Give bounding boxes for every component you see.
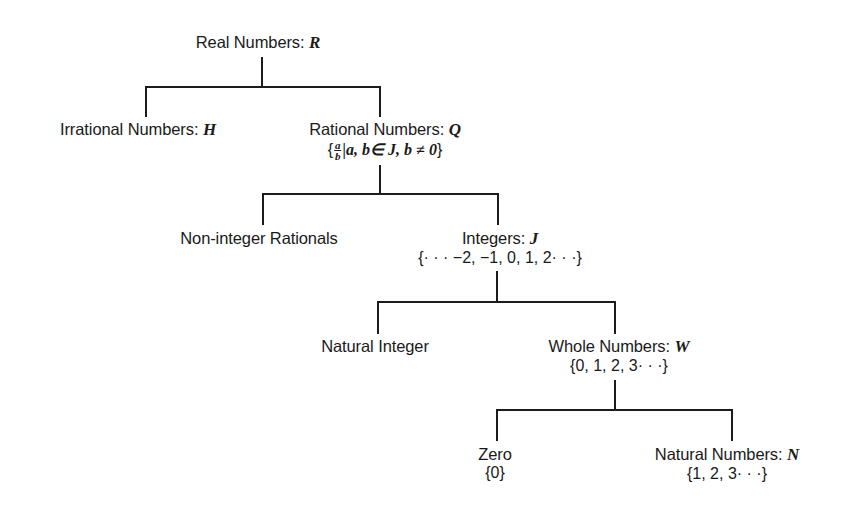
set-symbol: W: [674, 337, 689, 356]
set-roster: {0, 1, 2, 3· · ·}: [549, 357, 690, 375]
node-label: Whole Numbers: W: [549, 337, 690, 356]
set-builder-notation: {ab|a, b∈ J, b ≠ 0}: [309, 140, 461, 161]
node-natural-integer: Natural Integer: [321, 337, 429, 355]
set-condition: |a, b∈ J, b ≠ 0: [343, 141, 437, 158]
fraction-a-over-b: ab: [334, 140, 342, 161]
node-label: Integers: J: [418, 229, 582, 248]
label-text: Integers:: [462, 229, 530, 247]
connector-whole: [497, 381, 732, 440]
set-roster: {1, 2, 3· · ·}: [655, 465, 799, 483]
set-symbol: Q: [449, 120, 461, 139]
label-text: Rational Numbers:: [309, 120, 448, 138]
node-rational-numbers: Rational Numbers: Q {ab|a, b∈ J, b ≠ 0}: [309, 120, 461, 161]
node-irrational-numbers: Irrational Numbers: H: [60, 120, 216, 139]
connector-real: [146, 58, 380, 116]
node-label: Rational Numbers: Q: [309, 120, 461, 139]
number-classification-tree: Real Numbers: R Irrational Numbers: H Ra…: [0, 0, 863, 516]
brace-open: {: [328, 141, 333, 158]
connector-rational: [263, 166, 498, 224]
node-label: Non-integer Rationals: [180, 229, 338, 247]
fraction-denominator: b: [334, 151, 342, 161]
node-natural-numbers: Natural Numbers: N {1, 2, 3· · ·}: [655, 445, 799, 483]
node-label: Real Numbers: R: [196, 33, 320, 52]
node-real-numbers: Real Numbers: R: [196, 33, 320, 52]
connector-integers: [378, 272, 615, 333]
label-text: Real Numbers:: [196, 33, 309, 51]
label-text: Irrational Numbers:: [60, 120, 203, 138]
node-label: Natural Numbers: N: [655, 445, 799, 464]
set-roster: {0}: [478, 464, 512, 482]
node-zero: Zero {0}: [478, 445, 512, 482]
node-integers: Integers: J {· · · −2, −1, 0, 1, 2· · ·}: [418, 229, 582, 267]
brace-close: }: [437, 141, 442, 158]
set-symbol: N: [787, 445, 799, 464]
node-label: Irrational Numbers: H: [60, 120, 216, 139]
label-text: Natural Numbers:: [655, 445, 787, 463]
node-label: Natural Integer: [321, 337, 429, 355]
node-whole-numbers: Whole Numbers: W {0, 1, 2, 3· · ·}: [549, 337, 690, 375]
label-text: Whole Numbers:: [549, 337, 675, 355]
node-non-integer-rationals: Non-integer Rationals: [180, 229, 338, 247]
set-roster: {· · · −2, −1, 0, 1, 2· · ·}: [418, 249, 582, 267]
set-symbol: J: [530, 229, 538, 248]
node-label: Zero: [478, 445, 512, 463]
set-symbol: H: [203, 120, 216, 139]
set-symbol: R: [309, 33, 320, 52]
